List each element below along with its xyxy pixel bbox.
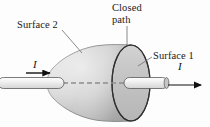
label-current-left: I	[33, 58, 37, 70]
label-current-right: I	[178, 60, 182, 72]
label-surface-2: Surface 2	[17, 19, 58, 31]
wire-segment-right	[124, 78, 169, 89]
wire-right-body	[124, 78, 168, 89]
wire-segment-left	[0, 78, 64, 89]
physics-diagram-figure: Surface 2 Closed path Surface 1 I I	[0, 0, 210, 127]
wire-right-end-cap	[164, 78, 169, 89]
leader-line-surface-2	[62, 30, 82, 53]
label-closed-path: Closed path	[112, 2, 142, 25]
label-surface-1: Surface 1	[153, 50, 194, 62]
wire-left-body	[0, 78, 64, 89]
